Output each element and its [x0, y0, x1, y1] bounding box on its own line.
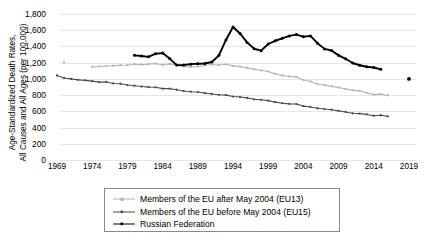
data-point: [126, 64, 128, 66]
y-tick-label: 1,600: [25, 25, 50, 35]
data-point: [260, 99, 262, 101]
data-point: [232, 95, 234, 97]
data-point: [288, 75, 290, 77]
data-point: [380, 93, 382, 95]
data-point: [210, 61, 213, 64]
x-tick-label: 2004: [294, 162, 312, 171]
data-point: [154, 62, 156, 64]
x-tick-label: 2014: [365, 162, 383, 171]
data-point: [133, 85, 135, 87]
data-point: [359, 112, 361, 114]
data-point: [140, 64, 142, 66]
legend-label: Russian Federation: [140, 219, 215, 229]
y-tick-label: 400: [32, 123, 50, 133]
data-point: [288, 34, 291, 37]
data-point: [274, 39, 277, 42]
data-point: [182, 63, 185, 66]
data-point: [189, 63, 192, 66]
data-point: [225, 94, 227, 96]
data-point: [352, 112, 354, 114]
data-point: [302, 105, 304, 107]
data-point: [274, 73, 276, 75]
data-point: [140, 85, 142, 87]
x-tick-label: 2009: [329, 162, 347, 171]
data-point: [203, 62, 206, 65]
data-point: [372, 66, 375, 69]
series-line: [134, 27, 380, 69]
data-point: [239, 65, 241, 67]
data-point: [183, 90, 185, 92]
data-point: [190, 91, 192, 93]
data-point: [380, 114, 382, 116]
data-point: [119, 64, 121, 66]
data-point: [112, 65, 114, 67]
data-point: [281, 102, 283, 104]
data-point: [359, 90, 361, 92]
data-point: [337, 54, 340, 57]
data-point: [387, 94, 389, 96]
data-point: [168, 57, 171, 60]
data-point: [98, 81, 100, 83]
data-point: [232, 65, 234, 67]
y-tick-label: 1,200: [25, 58, 50, 68]
data-point: [169, 63, 171, 65]
data-point: [295, 33, 298, 36]
data-point: [281, 74, 283, 76]
legend-label: Members of the EU after May 2004 (EU13): [140, 194, 303, 204]
data-point: [253, 98, 255, 100]
data-point: [330, 85, 332, 87]
data-point: [190, 66, 192, 68]
gridline: [60, 160, 416, 161]
data-point: [302, 79, 304, 81]
y-tick-label: 600: [32, 106, 50, 116]
data-point: [70, 78, 72, 80]
data-point: [91, 66, 93, 68]
data-point: [246, 41, 249, 44]
data-point: [176, 89, 178, 91]
data-point: [358, 64, 361, 67]
series-members-of-the-eu-before-may-2004-eu15: [56, 74, 389, 117]
data-point: [246, 97, 248, 99]
data-point: [316, 42, 319, 45]
y-tick-label: 1,800: [25, 9, 50, 19]
data-point: [225, 63, 227, 65]
data-point: [211, 63, 213, 65]
data-point: [140, 55, 143, 58]
data-point: [295, 103, 297, 105]
legend-label: Members of the EU before May 2004 (EU15): [140, 207, 311, 217]
y-tick-label: 1,000: [25, 74, 50, 84]
legend-swatch-icon: [113, 207, 135, 217]
data-point: [309, 106, 311, 108]
data-point: [224, 38, 227, 41]
data-point: [260, 69, 262, 71]
data-point: [169, 87, 171, 89]
isolated-data-point: [407, 77, 411, 81]
x-tick-label: 1969: [48, 162, 66, 171]
legend-item[interactable]: Members of the EU after May 2004 (EU13): [113, 193, 339, 205]
legend-item[interactable]: Russian Federation: [113, 218, 339, 230]
x-tick-label: 1984: [154, 162, 172, 171]
legend-item[interactable]: Members of the EU before May 2004 (EU15): [113, 205, 339, 217]
data-point: [323, 108, 325, 110]
data-point: [337, 110, 339, 112]
data-point: [77, 79, 79, 81]
data-point: [274, 101, 276, 103]
data-point: [281, 37, 284, 40]
data-point: [323, 84, 325, 86]
data-point: [204, 92, 206, 94]
data-point: [133, 63, 135, 65]
data-point: [352, 89, 354, 91]
data-point: [267, 99, 269, 101]
data-point: [211, 93, 213, 95]
data-point: [344, 111, 346, 113]
data-point: [218, 94, 220, 96]
data-point: [133, 54, 136, 57]
data-point: [197, 65, 199, 67]
data-point: [253, 47, 256, 50]
legend-swatch-icon: [113, 194, 135, 204]
data-point: [154, 86, 156, 88]
data-point: [197, 91, 199, 93]
data-point: [365, 65, 368, 68]
data-point: [246, 67, 248, 69]
data-point: [161, 52, 164, 55]
